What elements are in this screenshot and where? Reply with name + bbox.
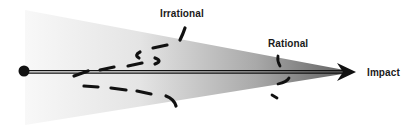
decision-cone-diagram (0, 0, 415, 127)
gradient-cone (25, 10, 355, 125)
rational-label: Rational (268, 38, 308, 49)
origin-point-icon (19, 66, 30, 77)
irrational-label: Irrational (160, 8, 204, 19)
impact-label: Impact (367, 67, 400, 78)
